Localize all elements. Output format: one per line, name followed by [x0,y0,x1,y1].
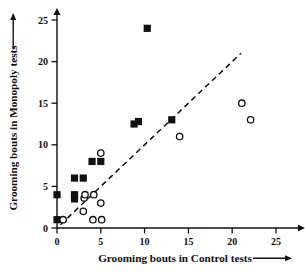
data-point-filled-square [144,25,151,32]
data-point-filled-square [168,116,175,123]
x-axis-arrow-icon [298,224,305,231]
x-tick-label: 0 [55,236,60,247]
data-point-open-circle [247,117,253,123]
y-tick-label: 25 [38,15,48,26]
data-point-open-circle [80,208,86,214]
x-tick-label: 25 [271,236,281,247]
data-point-filled-square [71,174,78,181]
data-point-open-circle [90,216,96,222]
data-point-filled-square [135,118,142,125]
data-point-open-circle [91,192,97,198]
data-point-filled-square [53,191,60,198]
data-point-open-circle [176,133,182,139]
data-point-filled-square [80,174,87,181]
y-tick-label: 20 [38,56,48,67]
data-point-open-circle [82,192,88,198]
x-tick-label: 5 [98,236,103,247]
data-point-open-circle [98,200,104,206]
x-tick-label: 15 [183,236,193,247]
x-tick-label: 10 [140,236,150,247]
data-point-open-circle [239,100,245,106]
x-axis-title: Grooming bouts in Control tests [98,252,252,264]
data-point-filled-square [97,158,104,165]
scatter-plot-figure: 05101520250510152025Grooming bouts in Co… [0,0,305,278]
data-point-open-circle [98,216,104,222]
x-axis-title-arrow-icon [285,255,292,261]
y-axis-title-arrow-icon [10,13,16,20]
data-point-filled-square [71,191,78,198]
y-tick-label: 10 [38,139,48,150]
data-point-filled-square [88,158,95,165]
data-point-open-circle [98,150,104,156]
data-point-open-circle [60,216,66,222]
x-tick-label: 20 [227,236,237,247]
y-tick-label: 5 [43,181,48,192]
y-tick-label: 0 [43,223,48,234]
y-axis-title: Grooming bouts in Monopoly tests [7,45,19,211]
y-axis-arrow-icon [53,8,60,15]
y-tick-label: 15 [38,98,48,109]
chart-canvas: 05101520250510152025Grooming bouts in Co… [0,0,305,278]
